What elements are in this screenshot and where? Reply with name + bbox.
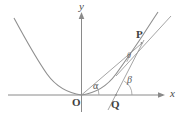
angle-beta-label: β (127, 75, 132, 85)
chord-op-line (82, 44, 142, 95)
segment-OP (82, 44, 142, 95)
point-q-marker (115, 94, 117, 96)
origin-label: O (72, 97, 81, 108)
point-p-label: P (136, 29, 143, 40)
angle-alpha-label: α (93, 81, 98, 91)
angle-theta-label: θ (127, 52, 131, 60)
point-q-label: Q (111, 99, 120, 110)
y-axis-arrowhead (79, 12, 85, 19)
tangent-line (116, 16, 171, 76)
y-axis-label: y (79, 1, 84, 12)
figure-canvas (0, 0, 184, 126)
x-axis-label: x (170, 88, 175, 99)
point-p-marker (141, 42, 143, 44)
tangent-at-P (116, 16, 171, 76)
x-axis-arrowhead (158, 92, 165, 98)
parabola-angle-figure: y x O P Q α β θ (0, 0, 184, 126)
x-axis (8, 92, 165, 98)
